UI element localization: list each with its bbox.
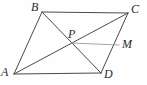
geometry-figure: A B C D P M — [0, 0, 147, 85]
diagonal-bd — [42, 12, 101, 73]
segment-bc — [42, 12, 128, 13]
vertex-label-b: B — [31, 1, 38, 13]
segment-pm — [71, 43, 119, 45]
vertex-label-c: C — [131, 3, 139, 15]
vertex-label-m: M — [122, 38, 132, 50]
segment-ab — [14, 12, 42, 74]
vertex-label-p: P — [68, 28, 75, 40]
segment-da — [14, 73, 101, 74]
vertex-label-a: A — [1, 66, 8, 78]
diagonal-ac — [14, 13, 128, 74]
vertex-label-d: D — [104, 68, 113, 80]
segment-group — [14, 12, 128, 74]
